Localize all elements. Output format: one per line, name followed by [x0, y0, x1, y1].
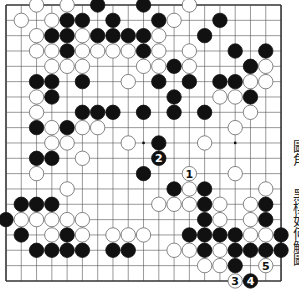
- white-stone: [45, 136, 59, 150]
- white-stone: [259, 228, 273, 242]
- black-stone: [14, 197, 28, 211]
- black-stone: [152, 136, 166, 150]
- black-stone: [90, 0, 104, 12]
- white-stone: [136, 59, 150, 73]
- caption-problem-text: 黑棋如何解圖: [286, 188, 299, 283]
- white-stone: [75, 212, 89, 226]
- white-stone-move-1: 1: [182, 166, 196, 180]
- white-stone: [182, 182, 196, 196]
- black-stone: [213, 74, 227, 88]
- black-stone: [182, 74, 196, 88]
- black-stone: [197, 182, 211, 196]
- white-stone: [213, 197, 227, 211]
- black-stone: [29, 74, 43, 88]
- white-stone: [29, 44, 43, 58]
- black-stone: [75, 13, 89, 27]
- black-stone: [60, 228, 74, 242]
- black-stone: [136, 44, 150, 58]
- white-stone: [228, 166, 242, 180]
- white-stone: [213, 212, 227, 226]
- white-stone: [167, 13, 181, 27]
- black-stone: [243, 59, 257, 73]
- black-stone: [228, 228, 242, 242]
- black-stone: [197, 28, 211, 42]
- white-stone: [45, 13, 59, 27]
- white-stone: [182, 197, 196, 211]
- white-stone: [106, 228, 120, 242]
- white-stone: [243, 74, 257, 88]
- white-stone: [29, 212, 43, 226]
- white-stone: [152, 28, 166, 42]
- black-stone: [197, 197, 211, 211]
- star-point: [142, 142, 145, 145]
- white-stone: [228, 90, 242, 104]
- white-stone: [213, 258, 227, 272]
- white-stone-move-3: 3: [228, 274, 242, 288]
- black-stone: [136, 28, 150, 42]
- white-stone: [29, 28, 43, 42]
- black-stone: [14, 228, 28, 242]
- white-stone: [14, 13, 28, 27]
- white-stone: [243, 197, 257, 211]
- white-stone: [259, 59, 273, 73]
- black-stone: [136, 0, 150, 12]
- white-stone: [75, 228, 89, 242]
- white-stone: [182, 44, 196, 58]
- white-stone: [182, 59, 196, 73]
- black-stone: [60, 44, 74, 58]
- black-stone: [75, 74, 89, 88]
- black-stone: [182, 228, 196, 242]
- white-stone: [152, 44, 166, 58]
- black-stone: [197, 212, 211, 226]
- move-number: 4: [247, 275, 255, 288]
- white-stone: [60, 59, 74, 73]
- black-stone: [121, 243, 135, 257]
- black-stone: [259, 212, 273, 226]
- black-stone: [243, 243, 257, 257]
- black-stone: [167, 182, 181, 196]
- black-stone: [152, 74, 166, 88]
- white-stone: [45, 228, 59, 242]
- white-stone-move-5: 5: [259, 258, 273, 272]
- black-stone: [45, 74, 59, 88]
- white-stone: [121, 74, 135, 88]
- white-stone: [182, 243, 196, 257]
- black-stone: [228, 74, 242, 88]
- black-stone: [197, 228, 211, 242]
- white-stone: [182, 0, 196, 12]
- white-stone: [213, 90, 227, 104]
- black-stone: [60, 243, 74, 257]
- white-stone: [60, 212, 74, 226]
- caption-figure-label: 圖角: [286, 140, 299, 170]
- white-stone: [121, 228, 135, 242]
- white-stone: [167, 197, 181, 211]
- white-stone: [75, 120, 89, 134]
- black-stone: [45, 90, 59, 104]
- white-stone: [75, 59, 89, 73]
- white-stone: [167, 243, 181, 257]
- white-stone: [243, 212, 257, 226]
- white-stone: [243, 105, 257, 119]
- black-stone: [90, 28, 104, 42]
- white-stone: [60, 0, 74, 12]
- black-stone: [75, 105, 89, 119]
- black-stone: [121, 28, 135, 42]
- black-stone: [167, 105, 181, 119]
- black-stone: [152, 13, 166, 27]
- black-stone: [60, 28, 74, 42]
- white-stone: [259, 182, 273, 196]
- white-stone: [45, 59, 59, 73]
- black-stone: [213, 13, 227, 27]
- black-stone: [228, 44, 242, 58]
- black-stone: [213, 228, 227, 242]
- black-stone: [29, 120, 43, 134]
- black-stone: [259, 197, 273, 211]
- black-stone: [106, 243, 120, 257]
- black-stone: [259, 44, 273, 58]
- white-stone: [213, 243, 227, 257]
- white-stone: [29, 105, 43, 119]
- white-stone: [90, 120, 104, 134]
- black-stone: [106, 105, 120, 119]
- white-stone: [152, 197, 166, 211]
- black-stone: [197, 105, 211, 119]
